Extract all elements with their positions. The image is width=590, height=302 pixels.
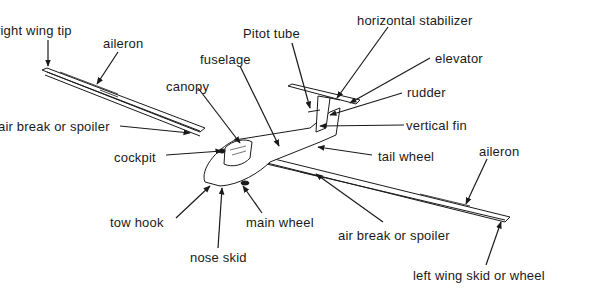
label-rudder: rudder: [407, 85, 446, 100]
label-left-wing-skid: left wing skid or wheel: [413, 268, 545, 283]
leader-left-wing-skid: [486, 222, 501, 265]
label-air-break-left: air break or spoiler: [338, 228, 450, 243]
tail: [288, 84, 360, 132]
label-nose-skid: nose skid: [190, 250, 247, 265]
label-air-break-right: air break or spoiler: [0, 119, 110, 134]
leader-fuselage: [240, 66, 279, 146]
leader-pitot-tube: [292, 43, 310, 108]
label-pitot-tube: Pitot tube: [243, 26, 300, 41]
label-horizontal-stabilizer: horizontal stabilizer: [357, 13, 472, 28]
leader-cockpit: [166, 151, 222, 155]
leader-horizontal-stabilizer: [337, 27, 388, 98]
leader-canopy: [198, 88, 240, 143]
label-tail-wheel: tail wheel: [378, 149, 434, 164]
label-right-wing-tip: right wing tip: [0, 23, 72, 38]
left-wing: [255, 156, 510, 222]
label-fuselage: fuselage: [200, 52, 251, 67]
leader-air-break-right: [120, 126, 190, 133]
label-vertical-fin: vertical fin: [406, 118, 467, 133]
label-cockpit: cockpit: [114, 150, 156, 165]
leader-tow-hook: [176, 186, 210, 218]
leader-nose-skid: [218, 188, 222, 248]
leader-main-wheel: [243, 186, 262, 213]
label-canopy: canopy: [166, 79, 209, 94]
label-tow-hook: tow hook: [110, 215, 164, 230]
label-aileron-left: aileron: [479, 144, 519, 159]
leader-aileron-right: [97, 52, 118, 84]
label-main-wheel: main wheel: [246, 215, 314, 230]
leader-tail-wheel: [318, 147, 372, 155]
glider-diagram: right wing tip aileron canopy air break …: [0, 0, 590, 302]
label-aileron-right: aileron: [103, 36, 143, 51]
label-elevator: elevator: [435, 51, 483, 66]
leader-aileron-left: [466, 159, 487, 204]
